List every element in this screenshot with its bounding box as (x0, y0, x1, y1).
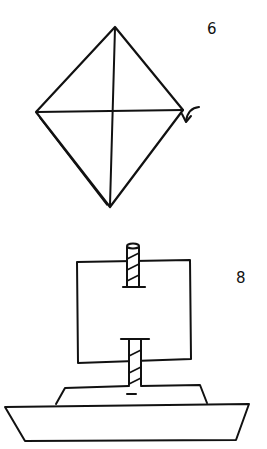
step-number-8: 8 (236, 269, 246, 287)
step-number-6: 6 (207, 20, 217, 38)
origami-diagram: 6 8 (0, 0, 267, 449)
mast-top (123, 244, 145, 288)
fold-arrow-icon (182, 107, 199, 122)
layered-edge-line (40, 118, 107, 205)
vertical-crease (110, 28, 115, 205)
horizontal-crease (37, 110, 183, 112)
step-6-figure: 6 (36, 20, 217, 207)
hull (5, 404, 249, 441)
diamond-outline (36, 27, 183, 207)
step-8-figure: 8 (5, 244, 249, 442)
